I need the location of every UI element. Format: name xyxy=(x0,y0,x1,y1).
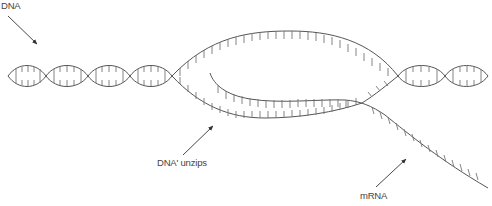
dna-label: DNA xyxy=(1,0,20,11)
unzips-arrow-icon xyxy=(183,126,213,155)
dna-arrow-icon xyxy=(8,16,37,44)
top-dna-strand xyxy=(172,31,398,76)
mrna-label: mRNA xyxy=(360,190,387,201)
left-double-helix xyxy=(8,66,172,87)
bottom-dna-strand xyxy=(172,76,398,118)
unzips-label: DNA' unzips xyxy=(157,157,207,168)
right-double-helix xyxy=(398,66,488,87)
transcription-diagram xyxy=(0,0,492,206)
mrna-strand xyxy=(210,73,488,188)
mrna-arrow-icon xyxy=(376,159,406,187)
